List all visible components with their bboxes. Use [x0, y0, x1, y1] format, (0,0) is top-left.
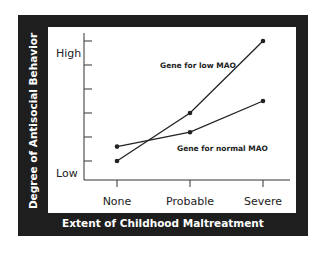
series-line [117, 41, 263, 161]
y-tick-high: High [56, 47, 81, 60]
series-label-low-mao: Gene for low MAO [160, 61, 236, 70]
data-point [188, 130, 193, 135]
x-ticks [117, 180, 263, 187]
data-point [261, 39, 266, 44]
data-point [115, 159, 120, 164]
series-line [117, 101, 263, 147]
x-tick-none: None [103, 195, 132, 208]
y-tick-low: Low [56, 167, 78, 180]
y-ticks [84, 41, 92, 161]
x-tick-probable: Probable [166, 195, 214, 208]
data-point [188, 111, 193, 116]
data-point [115, 144, 120, 149]
series-label-normal-mao: Gene for normal MAO [177, 144, 268, 153]
series-normal-mao [115, 99, 266, 149]
data-point [261, 99, 266, 104]
x-tick-severe: Severe [244, 195, 282, 208]
chart-plot: High Low None Probable Severe Gene for l… [0, 0, 322, 253]
